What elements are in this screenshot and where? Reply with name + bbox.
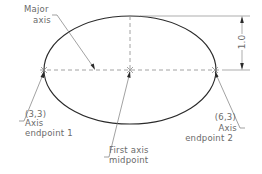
endpoint-2-coord: (6,3)	[215, 112, 236, 122]
endpoint-2-label-line2: endpoint 2	[185, 133, 233, 143]
endpoint-2-label-line1: Axis	[219, 123, 238, 133]
major-axis-label-line1: Major	[24, 4, 49, 14]
arrowhead-down-icon	[240, 63, 244, 70]
dimension-value: 1.0	[237, 35, 247, 50]
midpoint-label-line1: First axis	[109, 145, 149, 155]
arrowhead-up-icon	[240, 16, 244, 23]
endpoint-1-label-line1: Axis	[25, 118, 44, 128]
endpoint-1-label-line2: endpoint 1	[25, 128, 73, 138]
ellipse-diagram: 1.0 Major axis (3,3) Axis endpoint 1 Fir…	[0, 0, 262, 174]
major-axis-label-line2: axis	[33, 15, 51, 25]
midpoint-label-line2: midpoint	[109, 155, 149, 165]
